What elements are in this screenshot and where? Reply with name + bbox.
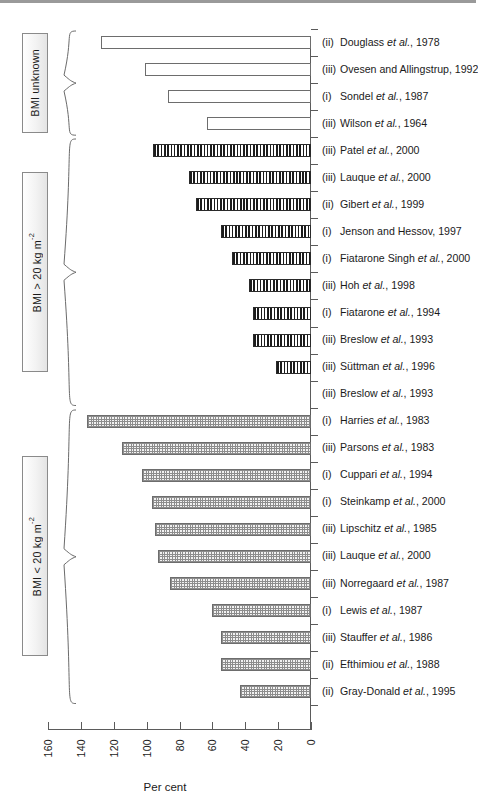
study-citation: Lipschitz et al., 1985 [340, 522, 437, 534]
group-box-bmi-below-20-label: BMI < 20 kg m-2 [27, 517, 43, 597]
study-numeral: (iii) [322, 145, 340, 156]
y-tick-0 [311, 56, 318, 57]
bar-3 [207, 117, 311, 130]
group-box-bmi-unknown-label: BMI unknown [29, 49, 41, 117]
study-citation: Steinkamp et al., 2000 [340, 495, 445, 507]
study-citation: Ovesen and Allingstrup, 1992 [340, 63, 478, 75]
study-numeral: (ii) [322, 659, 340, 670]
y-tick-3 [311, 137, 318, 138]
bar-6 [196, 198, 311, 211]
study-label-23: (ii)Efthimiou et al., 1988 [322, 659, 440, 670]
study-numeral: (iii) [322, 172, 340, 183]
study-numeral: (i) [322, 469, 340, 480]
study-numeral: (iii) [322, 550, 340, 561]
bar-17 [152, 496, 311, 509]
x-tick-80 [180, 722, 181, 730]
study-numeral: (iii) [322, 388, 340, 399]
study-citation: Lauque et al., 2000 [340, 171, 431, 183]
study-label-14: (i)Harries et al., 1983 [322, 415, 430, 426]
study-label-15: (iii)Parsons et al., 1983 [322, 442, 434, 453]
bar-23 [221, 658, 311, 671]
study-label-18: (iii)Lipschitz et al., 1985 [322, 523, 437, 534]
group-box-bmi-below-20: BMI < 20 kg m-2 [22, 456, 48, 656]
y-tick-21 [311, 624, 318, 625]
study-numeral: (iii) [322, 118, 340, 129]
group-box-bmi-above-20-label: BMI > 20 kg m-2 [27, 233, 43, 313]
group-brace-0 [62, 30, 76, 136]
study-numeral: (i) [322, 253, 340, 264]
y-tick-9 [311, 299, 318, 300]
study-citation: Parsons et al., 1983 [340, 441, 434, 453]
study-numeral: (ii) [322, 199, 340, 210]
study-citation: Harries et al., 1983 [340, 414, 430, 426]
y-tick-top [311, 29, 318, 30]
x-tick-20 [278, 722, 279, 730]
study-numeral: (iii) [322, 632, 340, 643]
study-numeral: (ii) [322, 37, 340, 48]
x-tick-label-40: 40 [239, 739, 251, 751]
study-citation: Lewis et al., 1987 [340, 604, 422, 616]
y-axis-line [310, 36, 311, 729]
study-label-2: (i)Sondel et al., 1987 [322, 91, 428, 102]
y-tick-6 [311, 218, 318, 219]
bar-20 [170, 577, 311, 590]
study-citation: Fiatarone Singh et al., 2000 [340, 252, 470, 264]
y-tick-1 [311, 83, 318, 84]
study-label-5: (iii)Lauque et al., 2000 [322, 172, 431, 183]
y-tick-20 [311, 597, 318, 598]
study-citation: Lauque et al., 2000 [340, 549, 431, 561]
study-label-8: (i)Fiatarone Singh et al., 2000 [322, 253, 470, 264]
bar-24 [240, 685, 311, 698]
bar-2 [168, 90, 311, 103]
study-citation: Breslow et al., 1993 [340, 333, 433, 345]
study-citation: Hoh et al., 1998 [340, 279, 415, 291]
study-numeral: (i) [322, 415, 340, 426]
study-numeral: (iii) [322, 334, 340, 345]
x-tick-label-120: 120 [108, 739, 120, 757]
x-tick-120 [114, 722, 115, 730]
group-box-bmi-above-20: BMI > 20 kg m-2 [22, 172, 48, 372]
study-citation: Sondel et al., 1987 [340, 90, 428, 102]
group-box-bmi-unknown: BMI unknown [22, 33, 48, 133]
bar-14 [87, 415, 311, 428]
y-tick-18 [311, 543, 318, 544]
study-label-7: (i)Jenson and Hessov, 1997 [322, 226, 462, 237]
y-tick-11 [311, 354, 318, 355]
study-label-1: (iii)Ovesen and Allingstrup, 1992 [322, 64, 478, 75]
study-label-6: (ii)Gibert et al., 1999 [322, 199, 424, 210]
x-tick-40 [245, 722, 246, 730]
study-numeral: (ii) [322, 686, 340, 697]
bar-10 [253, 307, 311, 320]
y-tick-4 [311, 164, 318, 165]
x-tick-160 [48, 722, 49, 730]
study-numeral: (i) [322, 91, 340, 102]
y-tick-16 [311, 489, 318, 490]
study-numeral: (i) [322, 226, 340, 237]
study-label-0: (ii)Douglass et al., 1978 [322, 37, 440, 48]
study-citation: Süttman et al., 1996 [340, 360, 435, 372]
study-label-4: (iii)Patel et al., 2000 [322, 145, 420, 156]
x-tick-label-140: 140 [75, 739, 87, 757]
study-citation: Jenson and Hessov, 1997 [340, 225, 462, 237]
bar-5 [189, 171, 311, 184]
study-numeral: (i) [322, 605, 340, 616]
y-tick-5 [311, 191, 318, 192]
study-label-9: (iii)Hoh et al., 1998 [322, 280, 415, 291]
bar-18 [155, 523, 311, 536]
y-tick-12 [311, 381, 318, 382]
x-tick-label-80: 80 [174, 739, 186, 751]
x-axis-title: Per cent [0, 781, 330, 793]
study-label-13: (iii)Breslow et al., 1993 [322, 388, 433, 399]
bar-19 [158, 550, 311, 563]
bar-9 [249, 279, 311, 292]
bar-21 [212, 604, 311, 617]
study-citation: Wilson et al., 1964 [340, 117, 427, 129]
study-label-20: (iii)Norregaard et al., 1987 [322, 578, 449, 589]
study-citation: Fiatarone et al., 1994 [340, 306, 440, 318]
y-tick-15 [311, 462, 318, 463]
study-label-11: (iii)Breslow et al., 1993 [322, 334, 433, 345]
study-numeral: (iii) [322, 361, 340, 372]
y-tick-14 [311, 435, 318, 436]
